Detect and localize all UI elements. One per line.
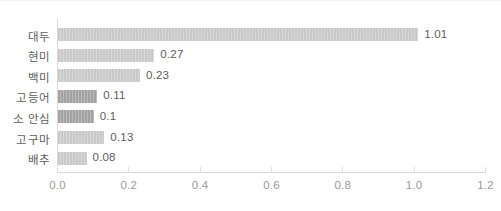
x-axis-tick-label: 0.6 (263, 179, 280, 191)
category-label-text: 백미 (28, 69, 50, 85)
x-axis-tick (271, 167, 272, 173)
x-axis-tick-label: 0.4 (192, 179, 209, 191)
bar-chart: 0.00.20.40.60.81.01.2 대두현미백미고등어소 안심고구마배추… (0, 0, 501, 211)
category-label-2: 현미 (0, 48, 50, 62)
bar-value-label-5: 0.1 (100, 110, 117, 122)
bar-3 (58, 69, 140, 82)
bar-value-label-2: 0.27 (160, 48, 183, 60)
category-label-3: 백미 (0, 69, 50, 83)
category-label-text: 고등어 (16, 89, 50, 105)
category-label-7: 배추 (0, 151, 50, 165)
x-axis-tick (485, 167, 486, 173)
bar-6 (58, 131, 104, 144)
category-label-text: 대두 (28, 28, 50, 44)
plot-area: 0.00.20.40.60.81.01.2 대두현미백미고등어소 안심고구마배추… (0, 0, 501, 211)
bar-value-label-7: 0.08 (93, 151, 116, 163)
x-axis-tick (128, 167, 129, 173)
bar-value-label-4: 0.11 (103, 89, 125, 101)
category-label-5: 소 안심 (0, 110, 50, 124)
x-axis-tick-label: 1.0 (406, 179, 423, 191)
x-axis-tick-label: 1.2 (477, 179, 494, 191)
category-label-text: 고구마 (16, 131, 50, 147)
x-axis-tick (414, 167, 415, 173)
category-label-text: 배추 (28, 151, 50, 167)
bar-value-label-1: 1.01 (424, 28, 447, 40)
x-axis-tick (57, 167, 58, 173)
x-axis-tick-label: 0.2 (121, 179, 138, 191)
x-axis-tick-label: 0.0 (49, 179, 66, 191)
x-axis-tick (200, 167, 201, 173)
bar-7 (58, 152, 87, 165)
bar-5 (58, 110, 94, 123)
bar-1 (58, 28, 418, 41)
x-axis-tick (342, 167, 343, 173)
category-label-6: 고구마 (0, 131, 50, 145)
x-axis-tick-label: 0.8 (335, 179, 352, 191)
category-label-text: 현미 (28, 48, 50, 64)
bar-2 (58, 49, 154, 62)
bar-value-label-3: 0.23 (146, 69, 169, 81)
category-label-4: 고등어 (0, 89, 50, 103)
category-label-1: 대두 (0, 28, 50, 42)
category-label-text: 소 안심 (13, 110, 50, 126)
bar-value-label-6: 0.13 (110, 131, 133, 143)
bar-4 (58, 90, 97, 103)
